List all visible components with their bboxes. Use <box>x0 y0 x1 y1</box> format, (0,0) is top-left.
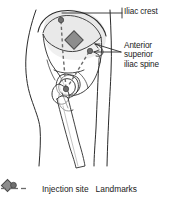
greater-trochanter-landmark-dot <box>63 86 68 91</box>
label-asis-line-3: iliac spine <box>124 60 159 69</box>
legend: Injection site Landmarks <box>0 178 179 200</box>
iliac-crest-landmark-dot <box>58 17 63 22</box>
legend-entry-injection-site: Injection site <box>42 184 89 194</box>
anatomical-diagram: Ventrogluteal injection site and bony la… <box>0 0 179 206</box>
legend-landmark-icon <box>0 178 28 193</box>
label-iliac-crest-text: Iliac crest <box>124 7 158 16</box>
legend-entry-landmarks: Landmarks <box>96 184 137 194</box>
label-asis-line-2: superior <box>124 50 159 59</box>
label-asis-line-1: Anterior <box>124 41 159 50</box>
diagram-canvas <box>0 0 179 206</box>
label-anterior-superior-iliac-spine: Anterior superior iliac spine <box>124 41 159 69</box>
anterior-superior-iliac-spine-landmark-dot <box>87 48 92 53</box>
label-iliac-crest: Iliac crest <box>124 7 158 16</box>
legend-landmarks-label: Landmarks <box>96 184 137 194</box>
legend-injection-site-label: Injection site <box>42 184 89 194</box>
femur-shaft <box>57 93 85 168</box>
